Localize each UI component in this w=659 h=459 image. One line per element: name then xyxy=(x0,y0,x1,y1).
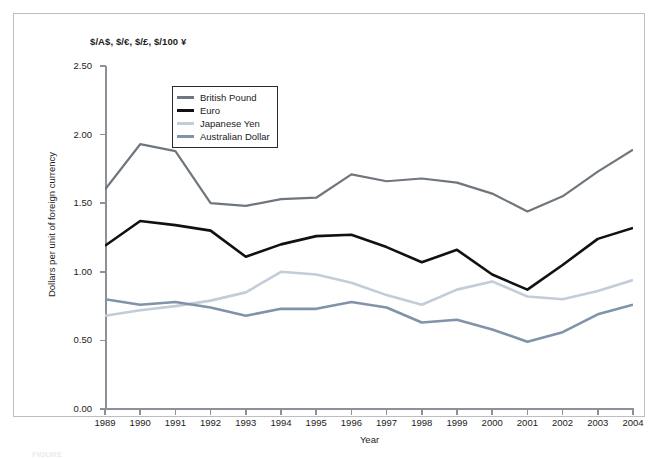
x-tick xyxy=(491,409,493,415)
chart-legend: British PoundEuroJapanese YenAustralian … xyxy=(172,86,278,148)
x-tick-label: 1995 xyxy=(296,417,336,428)
figure-frame: $/A$, $/€, $/£, $/100 ¥ 0.000.501.001.50… xyxy=(13,13,645,417)
legend-label: Japanese Yen xyxy=(200,117,260,130)
x-tick-label: 2004 xyxy=(613,417,653,428)
x-tick xyxy=(562,409,564,415)
x-tick-label: 2001 xyxy=(507,417,547,428)
y-tick-label: 0.00 xyxy=(58,403,92,414)
y-tick-label: 2.00 xyxy=(58,129,92,140)
series-line xyxy=(105,144,633,211)
x-tick xyxy=(210,409,212,415)
y-tick-label: 2.50 xyxy=(58,60,92,71)
legend-color-swatch xyxy=(177,96,194,99)
x-tick-label: 1989 xyxy=(85,417,125,428)
series-line xyxy=(105,272,633,316)
x-tick xyxy=(315,409,317,415)
x-tick-label: 1996 xyxy=(331,417,371,428)
x-tick-label: 2002 xyxy=(543,417,583,428)
legend-item: Euro xyxy=(177,104,270,117)
series-line xyxy=(105,221,633,290)
x-tick-label: 1999 xyxy=(437,417,477,428)
x-tick-label: 2003 xyxy=(578,417,618,428)
x-tick-label: 1990 xyxy=(120,417,160,428)
x-tick xyxy=(597,409,599,415)
x-tick xyxy=(245,409,247,415)
x-axis-title: Year xyxy=(105,434,634,445)
y-tick-label: 1.00 xyxy=(58,266,92,277)
legend-label: Australian Dollar xyxy=(200,130,270,143)
x-tick-label: 2000 xyxy=(472,417,512,428)
chart-title: $/A$, $/€, $/£, $/100 ¥ xyxy=(90,36,186,47)
legend-color-swatch xyxy=(177,122,194,125)
legend-item: Australian Dollar xyxy=(177,130,270,143)
y-tick-label: 0.50 xyxy=(58,334,92,345)
x-tick xyxy=(280,409,282,415)
legend-color-swatch xyxy=(177,135,194,138)
y-tick-label: 1.50 xyxy=(58,197,92,208)
x-tick xyxy=(421,409,423,415)
x-tick xyxy=(351,409,353,415)
x-tick xyxy=(175,409,177,415)
y-axis-title: Dollars per unit of foreign currency xyxy=(46,125,57,325)
legend-color-swatch xyxy=(177,109,194,112)
x-tick-label: 1994 xyxy=(261,417,301,428)
legend-item: British Pound xyxy=(177,91,270,104)
legend-item: Japanese Yen xyxy=(177,117,270,130)
x-tick-label: 1991 xyxy=(155,417,195,428)
x-tick-label: 1993 xyxy=(226,417,266,428)
x-tick xyxy=(139,409,141,415)
legend-label: Euro xyxy=(200,104,220,117)
x-tick xyxy=(104,409,106,415)
x-tick-label: 1997 xyxy=(367,417,407,428)
x-tick-label: 1992 xyxy=(191,417,231,428)
x-tick-label: 1998 xyxy=(402,417,442,428)
x-tick xyxy=(527,409,529,415)
x-tick xyxy=(456,409,458,415)
legend-label: British Pound xyxy=(200,91,257,104)
x-tick xyxy=(386,409,388,415)
x-tick xyxy=(632,409,634,415)
figure-caption-stub: FIGURE xyxy=(32,450,62,459)
